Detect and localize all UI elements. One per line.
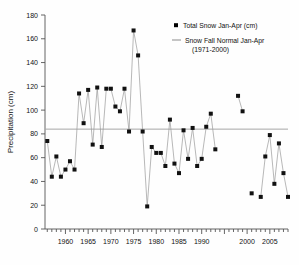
x-tick-label: 2005 [262, 238, 278, 245]
y-tick-label: 120 [26, 83, 38, 90]
data-point-marker [159, 151, 163, 155]
data-point-marker [250, 191, 254, 195]
data-point-marker [118, 109, 122, 113]
data-point-marker [132, 28, 136, 32]
x-tick-label: 1960 [58, 238, 74, 245]
y-tick-label: 20 [30, 202, 38, 209]
data-point-marker [182, 128, 186, 132]
data-point-marker [109, 87, 113, 91]
data-point-marker [59, 175, 63, 179]
y-tick-label: 100 [26, 107, 38, 114]
data-point-marker [145, 204, 149, 208]
data-point-marker [136, 53, 140, 57]
data-point-marker [268, 133, 272, 137]
data-point-marker [77, 91, 81, 95]
x-tick-label: 1985 [171, 238, 187, 245]
data-point-marker [195, 164, 199, 168]
x-tick-label: 2000 [239, 238, 255, 245]
legend-label-snow-fall-normal: Snow Fall Normal Jan-Apr [185, 37, 265, 45]
data-point-marker [100, 145, 104, 149]
data-point-marker [200, 157, 204, 161]
x-tick-label: 1965 [80, 238, 96, 245]
data-point-marker [63, 168, 67, 172]
precipitation-line-chart: 020406080100120140160180 196019651970197… [0, 0, 299, 265]
data-point-marker [277, 141, 281, 145]
legend-label-total-snow: Total Snow Jan-Apr (cm) [183, 22, 257, 30]
y-tick-label: 80 [30, 130, 38, 137]
data-point-marker [127, 130, 131, 134]
data-point-marker [141, 130, 145, 134]
data-point-marker [113, 105, 117, 109]
data-point-marker [82, 121, 86, 125]
data-point-marker [104, 87, 108, 91]
y-tick-label: 160 [26, 35, 38, 42]
data-point-marker [163, 164, 167, 168]
y-tick-label: 40 [30, 178, 38, 185]
y-tick-label: 140 [26, 59, 38, 66]
y-tick-label: 60 [30, 154, 38, 161]
data-point-marker [177, 171, 181, 175]
data-point-marker [168, 118, 172, 122]
data-point-marker [263, 154, 267, 158]
legend-marker-square-icon [174, 23, 178, 27]
data-point-marker [86, 88, 90, 92]
data-point-marker [54, 154, 58, 158]
data-point-marker [259, 195, 263, 199]
data-point-marker [186, 157, 190, 161]
data-point-marker [281, 171, 285, 175]
data-point-marker [191, 126, 195, 130]
data-point-marker [45, 139, 49, 143]
data-point-marker [73, 168, 77, 172]
data-point-marker [236, 94, 240, 98]
chart-container: 020406080100120140160180 196019651970197… [0, 0, 299, 265]
legend-label-normal-period: (1971-2000) [192, 46, 229, 54]
x-tick-label: 1970 [103, 238, 119, 245]
x-tick-label: 1980 [148, 238, 164, 245]
data-point-marker [241, 109, 245, 113]
data-point-marker [209, 112, 213, 116]
data-point-marker [272, 182, 276, 186]
x-tick-label: 1990 [194, 238, 210, 245]
data-point-marker [172, 162, 176, 166]
x-tick-label: 1975 [126, 238, 142, 245]
y-tick-label: 180 [26, 12, 38, 19]
data-point-marker [95, 86, 99, 90]
data-point-marker [154, 151, 158, 155]
data-point-marker [150, 145, 154, 149]
data-point-marker [122, 87, 126, 91]
data-point-marker [213, 147, 217, 151]
data-point-marker [91, 143, 95, 147]
y-tick-label: 0 [34, 226, 38, 233]
data-point-marker [50, 175, 54, 179]
data-point-marker [204, 125, 208, 129]
data-point-marker [68, 159, 72, 163]
y-axis-title: Precipitation (cm) [6, 91, 15, 154]
data-point-marker [286, 195, 290, 199]
